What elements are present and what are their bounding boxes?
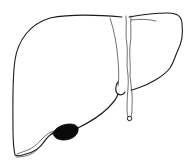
caudate-bulge <box>116 82 125 95</box>
round-ligament-tip <box>127 116 131 120</box>
falciform-ligament-left <box>126 16 128 117</box>
liver-drawing <box>0 0 193 168</box>
small-lobe-top-inner <box>131 19 156 21</box>
falciform-ligament-right <box>130 16 133 117</box>
gallbladder <box>53 124 78 140</box>
lobe-inner-curve <box>110 18 119 86</box>
liver-illustration: liver <box>0 0 193 168</box>
small-lobe-outline <box>129 13 182 90</box>
lower-edge <box>78 94 118 128</box>
